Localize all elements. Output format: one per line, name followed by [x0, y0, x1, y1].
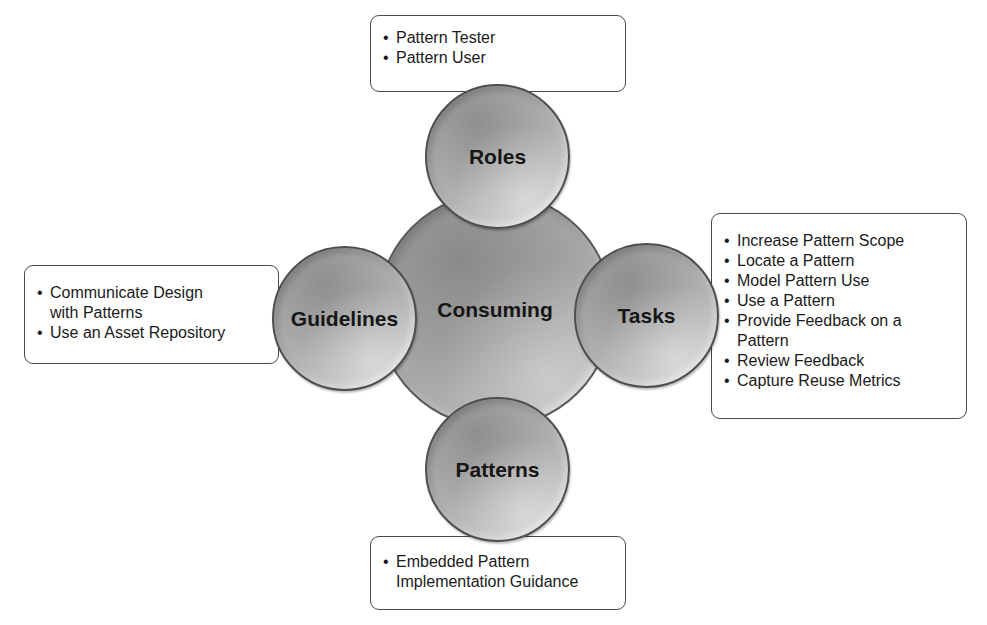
patterns-items-list: Embedded Pattern Implementation Guidance: [383, 552, 583, 592]
circle-tasks: Tasks: [574, 243, 719, 388]
patterns-item: Embedded Pattern Implementation Guidance: [383, 552, 583, 592]
tasks-item: Use a Pattern: [724, 291, 924, 311]
tasks-item: Capture Reuse Metrics: [724, 371, 924, 391]
roles-items-list: Pattern Tester Pattern User: [383, 28, 625, 68]
roles-items-box: Pattern Tester Pattern User: [370, 15, 626, 92]
roles-item: Pattern Tester: [383, 28, 625, 48]
tasks-label: Tasks: [618, 304, 676, 328]
guidelines-items-list: Communicate Design with Patterns Use an …: [37, 283, 227, 343]
guidelines-item: Communicate Design with Patterns: [37, 283, 227, 323]
roles-label: Roles: [469, 145, 526, 169]
tasks-item: Provide Feedback on a Pattern: [724, 311, 924, 351]
tasks-item: Review Feedback: [724, 351, 924, 371]
circle-guidelines: Guidelines: [272, 246, 417, 391]
tasks-items-box: Increase Pattern Scope Locate a Pattern …: [711, 213, 967, 419]
patterns-label: Patterns: [455, 458, 539, 482]
tasks-items-list: Increase Pattern Scope Locate a Pattern …: [724, 231, 924, 391]
guidelines-label: Guidelines: [291, 307, 398, 331]
tasks-item: Model Pattern Use: [724, 271, 924, 291]
circle-roles: Roles: [425, 84, 570, 229]
patterns-items-box: Embedded Pattern Implementation Guidance: [370, 536, 626, 610]
roles-item: Pattern User: [383, 48, 625, 68]
tasks-item: Increase Pattern Scope: [724, 231, 924, 251]
guidelines-item: Use an Asset Repository: [37, 323, 227, 343]
guidelines-items-box: Communicate Design with Patterns Use an …: [24, 265, 279, 364]
circle-patterns: Patterns: [425, 397, 570, 542]
tasks-item: Locate a Pattern: [724, 251, 924, 271]
center-label: Consuming: [437, 298, 553, 322]
